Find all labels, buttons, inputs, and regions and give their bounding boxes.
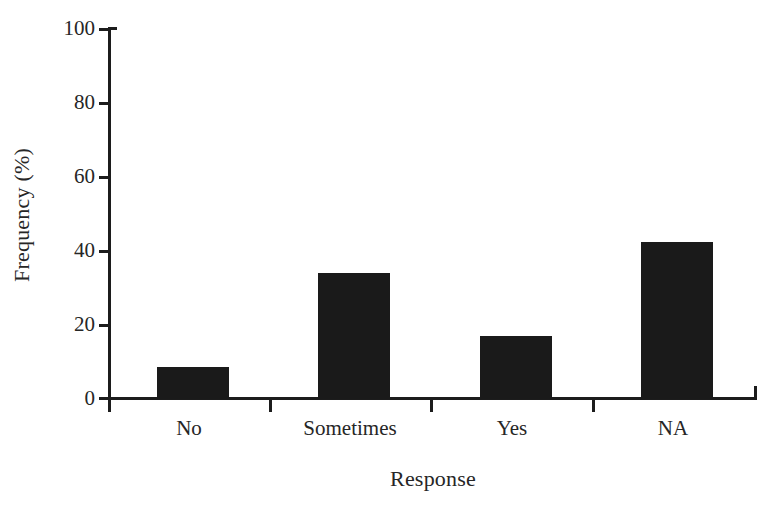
- x-tick-label-sometimes: Sometimes: [279, 418, 421, 439]
- y-tick-60: [99, 176, 109, 179]
- y-tick-label-40: 40: [25, 240, 95, 261]
- y-tick-40: [99, 250, 109, 253]
- y-tick-label-60: 60: [25, 166, 95, 187]
- y-tick-100: [99, 28, 109, 31]
- y-axis-top-cap: [108, 27, 117, 30]
- y-tick-label-20: 20: [25, 314, 95, 335]
- x-tick-boundary-1: [269, 400, 272, 412]
- y-tick-80: [99, 102, 109, 105]
- y-tick-label-0: 0: [25, 388, 95, 409]
- bar-sometimes: [318, 273, 390, 399]
- y-tick-20: [99, 324, 109, 327]
- bar-yes: [480, 336, 552, 399]
- x-tick-boundary-3: [592, 400, 595, 412]
- bar-no: [157, 367, 229, 399]
- bar-na: [641, 242, 713, 399]
- x-axis-right-cap: [754, 386, 757, 400]
- bar-chart: Frequency (%) 100 80 60 40 20 0 No Somet…: [0, 0, 773, 513]
- x-tick-label-no: No: [118, 418, 260, 439]
- y-axis-title-container: Frequency (%): [0, 20, 44, 410]
- y-tick-label-80: 80: [25, 92, 95, 113]
- x-tick-label-yes: Yes: [441, 418, 583, 439]
- y-axis-title: Frequency (%): [0, 20, 44, 410]
- x-tick-label-na: NA: [602, 418, 744, 439]
- x-tick-boundary-2: [430, 400, 433, 412]
- y-tick-label-100: 100: [25, 18, 95, 39]
- x-axis-title: Response: [110, 466, 756, 492]
- x-tick-boundary-0: [108, 400, 111, 412]
- y-axis-line: [108, 27, 111, 401]
